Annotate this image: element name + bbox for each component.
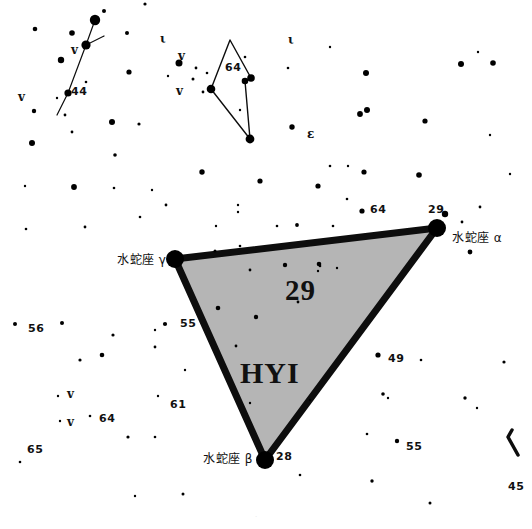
star-marker (216, 306, 221, 311)
star-marker (357, 111, 363, 117)
star-marker (154, 346, 157, 349)
star-marker (139, 216, 142, 219)
star-marker (317, 270, 319, 272)
constellation-fill-group (175, 228, 437, 460)
star-marker (57, 395, 59, 397)
named-star-beta (256, 451, 274, 469)
star-marker (375, 352, 380, 357)
star-marker (244, 56, 247, 59)
star-marker (102, 9, 106, 13)
star-marker (19, 461, 22, 464)
star-marker (420, 359, 423, 362)
star-marker (249, 269, 252, 272)
star-marker (287, 67, 290, 70)
star-marker (137, 122, 140, 125)
star-marker (361, 169, 366, 174)
star-marker (363, 70, 369, 76)
star-marker (90, 15, 100, 25)
star-marker (235, 345, 238, 348)
star-marker (163, 322, 167, 326)
star-marker (78, 358, 81, 361)
star-marker (297, 301, 300, 304)
star-marker (154, 329, 156, 331)
star-marker (113, 187, 116, 190)
star-marker (126, 69, 131, 74)
star-marker (237, 211, 239, 213)
star-marker (461, 221, 464, 224)
star-marker (69, 30, 75, 36)
sky-svg (0, 0, 532, 529)
star-marker (477, 51, 479, 53)
star-marker (468, 250, 473, 255)
star-marker (214, 250, 217, 253)
star-marker (295, 223, 299, 227)
star-marker (100, 353, 105, 358)
star-marker (309, 399, 311, 401)
star-marker (60, 321, 64, 325)
star-marker (346, 198, 349, 201)
star-marker (283, 263, 287, 267)
star-marker (476, 407, 478, 409)
star-marker (24, 185, 26, 187)
star-marker (489, 134, 491, 136)
star-marker (237, 204, 239, 206)
star-marker (151, 189, 153, 191)
star-marker (56, 97, 58, 99)
star-marker (81, 40, 90, 49)
star-marker (167, 75, 169, 77)
star-marker (199, 169, 204, 174)
asterism-line (57, 20, 95, 115)
star-marker (239, 109, 241, 111)
constellation-boundary-polygon (175, 228, 437, 460)
star-marker (71, 184, 77, 190)
star-marker (126, 435, 129, 438)
star-marker (249, 402, 251, 404)
named-star-alpha (428, 219, 446, 237)
star-marker (509, 173, 511, 175)
star-marker (347, 165, 349, 167)
star-marker (64, 114, 67, 117)
star-marker (332, 225, 335, 228)
star-marker (276, 225, 279, 228)
star-marker (113, 153, 117, 157)
star-marker (206, 72, 209, 75)
star-marker (370, 479, 373, 482)
star-marker (416, 172, 422, 178)
star-marker (247, 74, 255, 82)
star-marker (422, 118, 427, 123)
star-marker (165, 204, 168, 207)
star-marker (182, 493, 185, 496)
star-marker (89, 415, 92, 418)
star-marker (364, 107, 370, 113)
star-marker (429, 502, 432, 505)
star-marker (59, 420, 61, 422)
star-marker (33, 27, 38, 32)
star-marker (299, 474, 302, 477)
star-marker (109, 119, 115, 125)
star-marker (143, 2, 146, 5)
star-marker (192, 78, 195, 81)
star-marker (490, 60, 496, 66)
footer-caption: · (255, 513, 258, 521)
star-marker (32, 109, 36, 113)
star-marker (125, 31, 129, 35)
star-marker (442, 211, 448, 217)
star-marker (239, 245, 242, 248)
star-marker (58, 57, 64, 63)
star-marker (215, 225, 217, 227)
star-marker (289, 124, 294, 129)
star-marker (71, 131, 74, 134)
star-marker (387, 397, 389, 399)
star-marker (254, 315, 258, 319)
star-marker (246, 135, 255, 144)
asterism-line (508, 430, 518, 455)
star-marker (157, 395, 159, 397)
star-marker (381, 392, 385, 396)
star-marker (207, 85, 216, 94)
star-marker (202, 91, 205, 94)
asterism-line (245, 78, 251, 139)
named-star-gamma (166, 250, 184, 268)
star-marker (111, 333, 114, 336)
star-marker (359, 208, 364, 213)
star-marker (395, 439, 399, 443)
